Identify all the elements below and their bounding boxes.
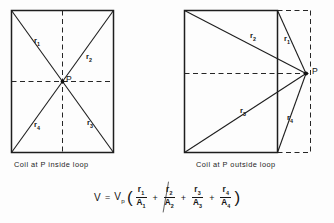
equation-term-4: r4 A4 xyxy=(219,186,232,209)
equation-term-3-denominator: A3 xyxy=(193,199,202,209)
left-label-r2: r2 xyxy=(86,52,92,63)
equation-term-1-numerator: r1 xyxy=(138,186,145,196)
left-radius-line-r4 xyxy=(12,82,63,153)
right-panel-caption: Coil at P outside loop xyxy=(196,160,276,169)
equation-lhs: V xyxy=(94,192,101,203)
right-label-r3: r3 xyxy=(240,106,246,117)
right-radius-line-r1 xyxy=(278,11,307,74)
equation-term-1: r1 A1 xyxy=(135,186,148,209)
right-label-r4: r4 xyxy=(287,113,293,124)
equation: V = Vp ( r1 A1 + r2 xyxy=(0,186,334,209)
left-radius-line-r3 xyxy=(63,82,114,153)
left-panel-caption: Coil at P inside loop xyxy=(14,160,89,169)
equation-plus-2: + xyxy=(178,193,189,203)
equation-term-3: r3 A3 xyxy=(191,186,204,209)
equation-close-paren: ) xyxy=(234,189,240,206)
left-point-p-marker xyxy=(61,80,65,84)
figure-page: r1 r2 r3 r4 P r1 r2 r3 r4 P Coil at P in… xyxy=(0,0,334,223)
right-label-r2: r2 xyxy=(250,31,256,42)
equation-plus-3: + xyxy=(206,193,217,203)
equation-term-2: r2 A2 xyxy=(163,186,176,209)
left-label-r1: r1 xyxy=(34,36,40,47)
equation-term-1-denominator: A1 xyxy=(136,199,145,209)
left-label-r3: r3 xyxy=(87,118,93,129)
equation-term-2-denominator: A2 xyxy=(165,199,174,209)
right-label-p: P xyxy=(312,66,318,76)
equation-equals-sign: = xyxy=(103,192,112,202)
left-diagram xyxy=(12,11,114,153)
left-label-p: P xyxy=(66,74,72,84)
equation-term-3-numerator: r3 xyxy=(194,186,201,196)
equation-term-4-numerator: r4 xyxy=(223,186,230,196)
equation-row: V = Vp ( r1 A1 + r2 xyxy=(94,186,240,209)
equation-coefficient: Vp xyxy=(114,191,125,204)
equation-plus-1: + xyxy=(150,193,161,203)
right-label-r1: r1 xyxy=(284,34,290,45)
right-point-p-marker xyxy=(304,71,308,75)
equation-term-4-denominator: A4 xyxy=(221,199,230,209)
right-coil-rectangle xyxy=(185,11,278,153)
right-diagram xyxy=(185,11,311,153)
left-radius-line-r2 xyxy=(63,11,114,82)
equation-term-2-numerator: r2 xyxy=(166,186,173,196)
equation-open-paren: ( xyxy=(127,189,133,206)
left-label-r4: r4 xyxy=(34,120,40,131)
